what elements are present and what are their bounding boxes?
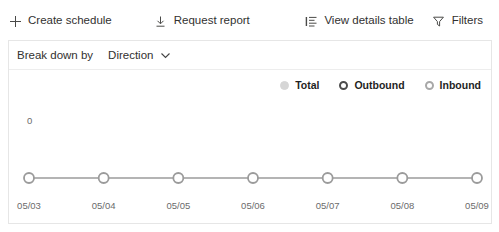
x-axis-tick-label: 05/07 [316, 201, 340, 211]
x-axis-tick-label: 05/03 [17, 201, 41, 211]
view-details-table-button[interactable]: View details table [296, 11, 423, 31]
plus-icon [8, 14, 22, 28]
view-details-table-label: View details table [324, 15, 413, 27]
x-axis-tick-label: 05/04 [92, 201, 116, 211]
create-schedule-button[interactable]: Create schedule [0, 11, 122, 31]
x-axis: 05/0305/0405/0505/0605/0705/0805/09 [9, 201, 491, 213]
list-icon [304, 14, 318, 28]
chart-area: Total Outbound Inbound 0 05/0305/0405/05… [9, 70, 491, 223]
breakdown-row: Break down by Direction [9, 41, 491, 70]
toolbar-left-group: Create schedule Request report [0, 11, 260, 31]
breakdown-dropdown[interactable]: Direction [103, 46, 176, 64]
x-axis-tick-label: 05/06 [241, 201, 265, 211]
breakdown-value: Direction [108, 49, 153, 61]
funnel-icon [432, 14, 446, 28]
chart-card: Break down by Direction Total Outbound I… [8, 40, 492, 224]
chevron-down-icon [160, 50, 171, 61]
filters-button[interactable]: Filters [424, 11, 493, 31]
x-axis-tick-label: 05/09 [465, 201, 489, 211]
breakdown-label: Break down by [17, 49, 93, 61]
x-axis-tick-label: 05/05 [166, 201, 190, 211]
data-point-marker[interactable] [248, 173, 258, 183]
data-point-marker[interactable] [472, 173, 482, 183]
data-point-marker[interactable] [173, 173, 183, 183]
toolbar: Create schedule Request report View det [0, 8, 499, 34]
request-report-button[interactable]: Request report [146, 11, 260, 31]
request-report-label: Request report [174, 15, 250, 27]
data-point-marker[interactable] [99, 173, 109, 183]
data-point-marker[interactable] [24, 173, 34, 183]
data-point-marker[interactable] [397, 173, 407, 183]
toolbar-right-group: View details table Filters [296, 11, 499, 31]
filters-label: Filters [452, 15, 483, 27]
x-axis-tick-label: 05/08 [390, 201, 414, 211]
create-schedule-label: Create schedule [28, 15, 112, 27]
data-point-marker[interactable] [323, 173, 333, 183]
download-icon [154, 14, 168, 28]
